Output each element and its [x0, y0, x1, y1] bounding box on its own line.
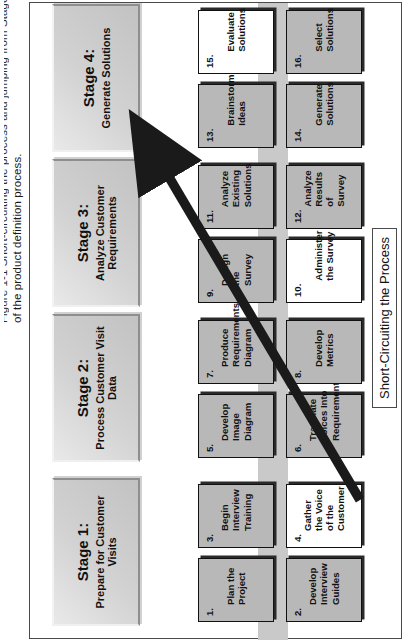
- step-label-6: Translate Voices Into Requirements: [307, 377, 341, 441]
- step-number-3: 3.: [204, 534, 215, 542]
- step-number-8: 8.: [292, 370, 303, 378]
- stage-title-1: Stage 1:: [74, 523, 91, 581]
- step-number-7: 7.: [204, 370, 215, 378]
- step-label-1: Plan the Project: [225, 563, 247, 605]
- step-number-1: 1.: [204, 608, 215, 616]
- step-box-5[interactable]: 5. Develop Image Diagram: [198, 394, 274, 458]
- step-label-13: Brainstorm Ideas: [225, 74, 247, 125]
- step-number-6: 6.: [292, 444, 303, 452]
- legend-label: Short-Circuiting the Process: [377, 237, 392, 399]
- step-number-15: 15.: [204, 55, 215, 68]
- step-label-14: Generate Solutions: [313, 82, 335, 126]
- step-number-13: 13.: [204, 129, 215, 142]
- step-box-4[interactable]: 4. Gather the Voice of the Customer: [286, 484, 362, 548]
- step-label-12: Analyze Results of Survey: [302, 170, 347, 207]
- step-label-10: Administer the Survey: [313, 231, 335, 281]
- figure-caption-line-1: Figure 1-1 Short-circuiting the process …: [0, 0, 10, 323]
- step-box-6[interactable]: 6. Translate Voices Into Requirements: [286, 394, 362, 458]
- diagram-canvas: Stage 1: Prepare for Customer Visits 1. …: [30, 3, 403, 640]
- figure-frame: Stage 1: Prepare for Customer Visits 1. …: [29, 2, 402, 639]
- stage-header-1[interactable]: Stage 1: Prepare for Customer Visits: [52, 478, 140, 626]
- stage-title-4: Stage 4:: [80, 49, 97, 107]
- step-label-16: Select Solutions: [313, 8, 335, 52]
- step-label-3: Begin Interview Training: [219, 489, 253, 531]
- figure-caption: Figure 1-1 Short-circuiting the process …: [0, 0, 28, 641]
- step-box-13[interactable]: 13. Brainstorm Ideas: [198, 84, 274, 148]
- step-box-8[interactable]: 8. Develop Metrics: [286, 320, 362, 384]
- stage-header-3[interactable]: Stage 3: Analyze Customer Requirements: [52, 159, 140, 307]
- stage-header-4[interactable]: Stage 4: Generate Solutions: [52, 4, 140, 152]
- step-box-2[interactable]: 2. Develop Interview Guides: [286, 558, 362, 622]
- step-label-5: Develop Image Diagram: [219, 399, 253, 441]
- step-label-15: Evaluate Solutions: [225, 8, 247, 52]
- step-box-15[interactable]: 15. Evaluate Solutions: [198, 10, 274, 74]
- figure-caption-line-2: of the product definition process.: [11, 153, 24, 323]
- legend-short-circuiting[interactable]: Short-Circuiting the Process: [372, 228, 397, 408]
- step-box-7[interactable]: 7. Produce Requirements Diagram: [198, 320, 274, 384]
- step-label-4: Gather the Voice of the Customer: [302, 486, 347, 531]
- step-label-11: Analyze Existing Solutions: [219, 163, 253, 207]
- step-label-9: Design the Survey: [219, 244, 253, 286]
- stage-title-2: Stage 2:: [74, 359, 91, 417]
- stage-subtitle-2: Process Customer Visit Data: [94, 316, 119, 460]
- step-number-10: 10.: [292, 284, 303, 297]
- step-box-1[interactable]: 1. Plan the Project: [198, 558, 274, 622]
- stage-header-2[interactable]: Stage 2: Process Customer Visit Data: [52, 314, 140, 462]
- step-number-5: 5.: [204, 444, 215, 452]
- step-number-9: 9.: [204, 289, 215, 297]
- step-box-11[interactable]: 11. Analyze Existing Solutions: [198, 165, 274, 229]
- step-box-9[interactable]: 9. Design the Survey: [198, 239, 274, 303]
- stage-subtitle-4: Generate Solutions: [100, 28, 113, 129]
- step-number-14: 14.: [292, 129, 303, 142]
- step-number-4: 4.: [292, 534, 303, 542]
- step-number-16: 16.: [292, 55, 303, 68]
- step-box-3[interactable]: 3. Begin Interview Training: [198, 484, 274, 548]
- step-number-2: 2.: [292, 608, 303, 616]
- stage-subtitle-1: Prepare for Customer Visits: [94, 480, 119, 624]
- step-box-12[interactable]: 12. Analyze Results of Survey: [286, 165, 362, 229]
- stage-subtitle-3: Analyze Customer Requirements: [94, 161, 119, 305]
- step-box-14[interactable]: 14. Generate Solutions: [286, 84, 362, 148]
- stage-title-3: Stage 3:: [74, 204, 91, 262]
- step-box-10[interactable]: 10. Administer the Survey: [286, 239, 362, 303]
- step-label-7: Produce Requirements Diagram: [219, 303, 253, 367]
- step-label-8: Develop Metrics: [313, 325, 335, 367]
- step-label-2: Develop Interview Guides: [307, 563, 341, 605]
- step-number-11: 11.: [204, 210, 215, 223]
- step-box-16[interactable]: 16. Select Solutions: [286, 10, 362, 74]
- step-number-12: 12.: [292, 210, 303, 223]
- figure-page: Figure 1-1 Short-circuiting the process …: [0, 0, 404, 641]
